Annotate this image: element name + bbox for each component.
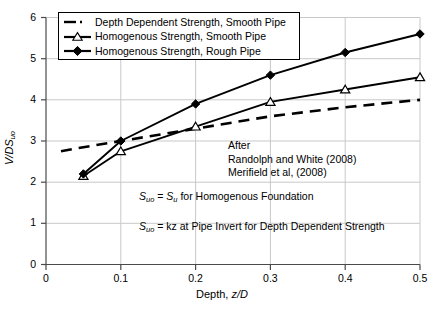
y-tick-marks bbox=[41, 18, 46, 265]
eq2-tail-text: = kz at Pipe Invert for Depth Dependent … bbox=[154, 220, 384, 232]
annotation-equation-depth-dependent: Suo = kz at Pipe Invert for Depth Depend… bbox=[139, 220, 385, 232]
eq1-tail-text: for Homogenous Foundation bbox=[178, 190, 314, 202]
y-axis-title: V/DSuo bbox=[2, 108, 16, 188]
marker-diamond bbox=[191, 100, 199, 108]
x-tick-label: 0.5 bbox=[400, 272, 440, 284]
chart-legend: Depth Dependent Strength, Smooth Pipe Ho… bbox=[58, 12, 300, 60]
annotation-equation-homogenous: Suo = Su for Homogenous Foundation bbox=[139, 190, 314, 202]
legend-item-2: Homogenous Strength, Rough Pipe bbox=[59, 44, 299, 59]
annotation-reference-randolph-white: Randolph and White (2008) bbox=[228, 153, 356, 165]
x-axis-title: Depth, z/D bbox=[0, 288, 444, 300]
eq1-symbol-1: S bbox=[139, 190, 146, 202]
annotation-reference-merifield: Merifield et al, (2008) bbox=[228, 166, 327, 178]
legend-item-1: Homogenous Strength, Smooth Pipe bbox=[59, 30, 299, 45]
marker-diamond bbox=[266, 71, 274, 79]
y-tick-label: 0 bbox=[16, 258, 36, 270]
marker-diamond bbox=[416, 30, 424, 38]
annotation-after: After bbox=[228, 139, 250, 151]
legend-key-open-triangle-line bbox=[63, 30, 93, 44]
y-tick-label: 1 bbox=[16, 216, 36, 228]
x-axis-title-variable: z/D bbox=[231, 288, 248, 300]
eq1-subscript-1: uo bbox=[146, 195, 154, 204]
legend-key-filled-diamond-line bbox=[63, 44, 93, 58]
x-tick-marks bbox=[46, 265, 420, 271]
legend-key-dashed-line bbox=[63, 15, 93, 29]
x-tick-label: 0.3 bbox=[250, 272, 290, 284]
legend-label-2: Homogenous Strength, Rough Pipe bbox=[93, 46, 261, 57]
x-tick-label: 0.2 bbox=[176, 272, 216, 284]
x-tick-label: 0.4 bbox=[325, 272, 365, 284]
x-tick-label: 0 bbox=[26, 272, 66, 284]
eq1-subscript-2: u bbox=[173, 195, 177, 204]
legend-item-0: Depth Dependent Strength, Smooth Pipe bbox=[59, 15, 299, 30]
legend-label-1: Homogenous Strength, Smooth Pipe bbox=[93, 31, 266, 42]
x-axis-title-prefix: Depth, bbox=[196, 288, 231, 300]
marker-triangle bbox=[415, 73, 424, 81]
legend-label-0: Depth Dependent Strength, Smooth Pipe bbox=[93, 17, 286, 28]
chart-figure: V/DSuo Depth, z/D 00.10.20.30.40.5012345… bbox=[0, 0, 444, 312]
eq1-operator: = bbox=[154, 190, 166, 202]
eq2-subscript-1: uo bbox=[146, 225, 154, 234]
y-tick-label: 4 bbox=[16, 93, 36, 105]
y-tick-label: 3 bbox=[16, 134, 36, 146]
y-tick-label: 2 bbox=[16, 175, 36, 187]
y-axis-title-main: V/DS bbox=[3, 139, 15, 165]
eq2-symbol-1: S bbox=[139, 220, 146, 232]
marker-diamond bbox=[341, 48, 349, 56]
x-tick-label: 0.1 bbox=[101, 272, 141, 284]
y-tick-label: 5 bbox=[16, 52, 36, 64]
y-tick-label: 6 bbox=[16, 11, 36, 23]
